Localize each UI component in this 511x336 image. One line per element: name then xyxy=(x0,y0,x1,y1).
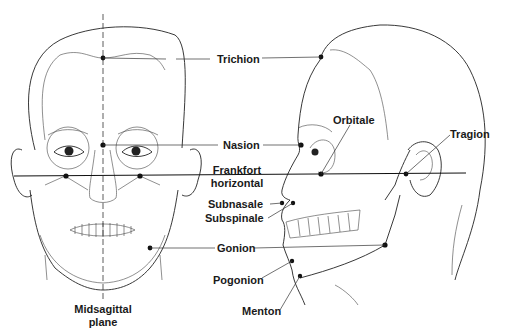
gonion-leader-lateral xyxy=(254,245,385,248)
orbitale-point-frontal-right xyxy=(63,173,68,178)
orbitale-leader xyxy=(321,125,350,174)
subspinale-leader xyxy=(268,203,293,218)
frankfort-horizontal-label-line1: Frankfort xyxy=(207,164,267,176)
menton-label: Menton xyxy=(242,305,281,317)
lateral-head-drawing xyxy=(282,25,486,305)
frontal-face-drawing xyxy=(11,14,201,300)
tragion-leader xyxy=(406,135,450,174)
orbitale-point-frontal-left xyxy=(137,173,142,178)
subspinale-label: Subspinale xyxy=(205,212,264,224)
tragion-label: Tragion xyxy=(450,128,490,140)
orbitale-label: Orbitale xyxy=(333,114,375,126)
trichion-leader-frontal xyxy=(103,58,166,59)
pogonion-label: Pogonion xyxy=(213,274,264,286)
midsagittal-plane-label-line1: Midsagittal xyxy=(73,303,133,315)
trichion-label: Trichion xyxy=(217,53,260,65)
facial-landmarks-diagram: Trichion Nasion Orbitale Tragion Frankfo… xyxy=(0,0,511,336)
frankfort-horizontal-label-line2: horizontal xyxy=(207,177,267,189)
subnasale-label: Subnasale xyxy=(208,198,263,210)
midsagittal-plane-label-line2: plane xyxy=(73,316,133,328)
menton-leader xyxy=(280,276,300,310)
nasion-label: Nasion xyxy=(223,139,260,151)
trichion-leader-lateral xyxy=(262,57,321,58)
gonion-label: Gonion xyxy=(217,242,256,254)
pogonion-leader xyxy=(262,261,292,278)
